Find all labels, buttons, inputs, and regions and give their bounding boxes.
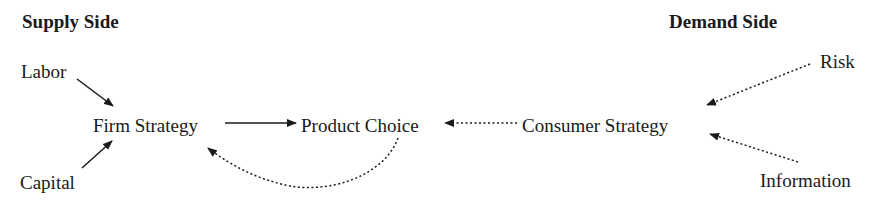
information-to-consumer-arrow: [710, 134, 798, 162]
diagram-edges: [0, 0, 880, 200]
capital-to-firm-arrow: [82, 141, 112, 168]
supply-demand-diagram: Supply Side Demand Side Labor Capital Fi…: [0, 0, 880, 200]
labor-to-firm-arrow: [77, 79, 113, 106]
product-to-firm-feedback-arrow: [208, 138, 398, 188]
risk-to-consumer-arrow: [707, 64, 810, 105]
